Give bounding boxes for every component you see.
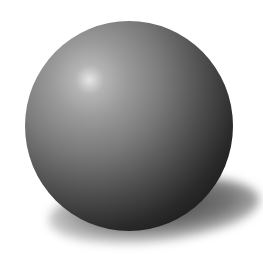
sphere — [25, 21, 233, 231]
image-canvas: shaded gray sphere with cast shadow — [0, 0, 263, 257]
